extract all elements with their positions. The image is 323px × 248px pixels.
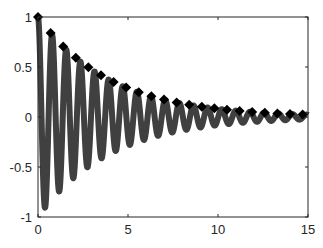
x-tick-label: 0: [34, 222, 41, 237]
chart: 051015 -1-0.500.51: [0, 0, 323, 248]
x-tick-label: 15: [301, 222, 315, 237]
plot-area: [33, 12, 308, 208]
y-tick-label: -0.5: [10, 160, 32, 175]
y-tick-label: -1: [20, 210, 32, 225]
y-tick-label: 0.5: [14, 60, 32, 75]
envelope-markers: [33, 12, 308, 119]
x-tick-label: 10: [211, 222, 225, 237]
y-tick-label: 1: [25, 10, 32, 25]
y-tick-label: 0: [25, 110, 32, 125]
x-tick-label: 5: [124, 222, 131, 237]
